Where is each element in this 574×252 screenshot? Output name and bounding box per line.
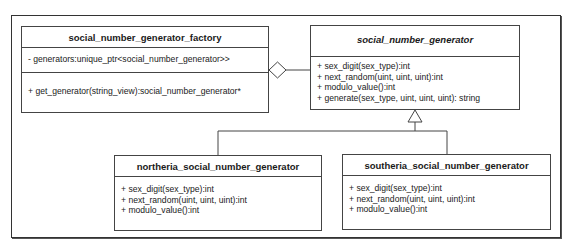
attribute: - generators:unique_ptr<social_number_ge… bbox=[28, 54, 268, 65]
operation: + get_generator(string_view):social_numb… bbox=[28, 86, 268, 97]
operations-section: + sex_digit(sex_type):int + next_random(… bbox=[343, 176, 550, 215]
aggregation-diamond-icon bbox=[269, 62, 286, 78]
operation: + modulo_value():int bbox=[349, 204, 550, 215]
operation: + modulo_value():int bbox=[317, 82, 519, 93]
operation: + next_random(uint, uint, uint):int bbox=[349, 194, 550, 205]
operations-section: + get_generator(string_view):social_numb… bbox=[22, 73, 268, 97]
aggregation-connector bbox=[269, 62, 310, 78]
operation: + sex_digit(sex_type):int bbox=[121, 184, 321, 195]
operations-section: + sex_digit(sex_type):int + next_random(… bbox=[115, 177, 321, 216]
class-name: social_number_generator_factory bbox=[22, 27, 268, 48]
class-social-number-generator-factory[interactable]: social_number_generator_factory - genera… bbox=[21, 26, 269, 113]
class-social-number-generator[interactable]: social_number_generator + sex_digit(sex_… bbox=[310, 25, 520, 110]
operations-section: + sex_digit(sex_type):int + next_random(… bbox=[311, 57, 519, 103]
operation: + sex_digit(sex_type):int bbox=[349, 183, 550, 194]
operation: + modulo_value():int bbox=[121, 205, 321, 216]
class-northeria-social-number-generator[interactable]: northeria_social_number_generator + sex_… bbox=[114, 155, 322, 231]
attributes-section: - generators:unique_ptr<social_number_ge… bbox=[22, 48, 268, 73]
class-name: social_number_generator bbox=[311, 26, 519, 57]
class-southeria-social-number-generator[interactable]: southeria_social_number_generator + sex_… bbox=[342, 154, 551, 230]
class-name: southeria_social_number_generator bbox=[343, 155, 550, 176]
class-name: northeria_social_number_generator bbox=[115, 156, 321, 177]
inheritance-triangle-icon bbox=[408, 110, 422, 122]
operation: + generate(sex_type, uint, uint, uint): … bbox=[317, 93, 519, 104]
operation: + sex_digit(sex_type):int bbox=[317, 61, 519, 72]
generalization-connector bbox=[218, 110, 447, 155]
operation: + next_random(uint, uint, uint):int bbox=[121, 195, 321, 206]
operation: + next_random(uint, uint, uint):int bbox=[317, 72, 519, 83]
